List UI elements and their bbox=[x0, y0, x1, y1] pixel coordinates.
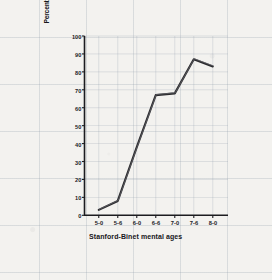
x-tick-label: 7-0 bbox=[165, 219, 185, 226]
x-tick-label: 6-6 bbox=[146, 219, 166, 226]
x-axis-title-text: Stanford-Binet mental ages bbox=[89, 232, 182, 241]
line-chart: progress in reading Percentages of child… bbox=[0, 0, 272, 280]
series-line-highlight bbox=[99, 59, 213, 210]
x-tick-label: 8-0 bbox=[203, 219, 223, 226]
x-axis-title: Stanford-Binet mental ages bbox=[0, 232, 272, 241]
x-tick-label: 7-6 bbox=[184, 219, 204, 226]
x-tick-label: 5-6 bbox=[108, 219, 128, 226]
x-tick-label: 5-0 bbox=[89, 219, 109, 226]
x-tick-label: 6-0 bbox=[127, 219, 147, 226]
